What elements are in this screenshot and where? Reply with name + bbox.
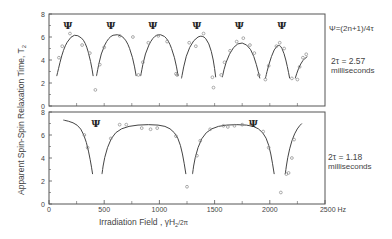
fit-curve [181, 36, 215, 78]
x-axis-title: Irradiation Field , γH2/2π [99, 217, 189, 228]
x-tick-label: 2500 Hz [320, 206, 347, 213]
fit-curve [285, 124, 302, 175]
data-point [147, 41, 150, 44]
data-point [140, 127, 143, 130]
data-point [186, 185, 189, 188]
y-axis-title-subscript: 2 [21, 44, 27, 48]
upper-tau-value: 2τ = 2.57 [331, 56, 366, 66]
psi-marker-icon: Ψ [91, 118, 101, 129]
fit-curve [57, 35, 93, 76]
psi-marker-icon: Ψ [249, 118, 259, 129]
fit-curve [102, 125, 186, 174]
psi-marker-icon: Ψ [148, 20, 158, 31]
lower-tau-unit: milliseconds [328, 162, 372, 171]
data-point [149, 128, 152, 131]
data-point [305, 53, 308, 56]
fit-curve [96, 35, 136, 76]
data-point [194, 45, 197, 48]
data-point [264, 78, 267, 81]
x-tick-label: 1000 [152, 206, 168, 213]
data-point [202, 32, 205, 35]
y-tick-label: 4 [41, 57, 45, 64]
data-point [278, 41, 281, 44]
psi-marker-icon: Ψ [63, 20, 73, 31]
data-point [212, 86, 215, 89]
data-point [290, 77, 293, 80]
data-point [118, 123, 121, 126]
x-tick-label: 500 [98, 206, 110, 213]
lower-psi-markers: ΨΨ [91, 118, 258, 129]
y-tick-label: 4 [41, 155, 45, 162]
fit-curve [265, 45, 289, 78]
y-axis-title: Apparent Spin-Spin Relaxation Time, T2 [16, 44, 27, 195]
fit-curve [222, 43, 260, 78]
upper-y-axis: 02468 [41, 11, 52, 110]
data-point [125, 123, 128, 126]
data-point [290, 157, 293, 160]
data-point [61, 45, 64, 48]
y-tick-label: 8 [41, 11, 45, 18]
fit-curve [141, 35, 179, 76]
x-tick-label: 0 [47, 206, 51, 213]
psi-marker-icon: Ψ [277, 20, 287, 31]
lower-tau-value: 2τ = 1.18 [328, 152, 363, 162]
data-point [156, 127, 159, 130]
data-point [188, 41, 191, 44]
data-point [302, 56, 305, 59]
data-point [242, 37, 245, 40]
x-tick-label: 1500 [207, 206, 223, 213]
data-point [283, 47, 286, 50]
psi-marker-icon: Ψ [106, 20, 116, 31]
y-tick-label: 2 [41, 178, 45, 185]
upper-psi-markers: ΨΨΨΨΨΨ [63, 20, 287, 31]
psi-legend: Ψ=(2n+1)/4τ [329, 24, 374, 33]
y-tick-label: 8 [41, 109, 45, 116]
data-point [94, 89, 97, 92]
fit-curve [295, 57, 307, 79]
data-point [296, 78, 299, 81]
data-point [249, 44, 252, 47]
data-point [253, 52, 256, 55]
data-point [235, 40, 238, 43]
y-tick-label: 6 [41, 34, 45, 41]
data-point [211, 76, 214, 79]
data-point [220, 74, 223, 77]
x-tick-label: 2000 [262, 206, 278, 213]
data-point [279, 191, 282, 194]
data-point [81, 44, 84, 47]
y-tick-label: 2 [41, 80, 45, 87]
data-point [223, 61, 226, 64]
data-point [132, 36, 135, 39]
data-point [226, 126, 229, 129]
data-point [293, 138, 296, 141]
psi-marker-icon: Ψ [192, 20, 202, 31]
y-tick-label: 0 [41, 201, 45, 208]
fit-curve [63, 120, 92, 174]
y-tick-label: 6 [41, 132, 45, 139]
upper-fit-curves [57, 35, 308, 79]
upper-tau-unit: milliseconds [331, 66, 375, 75]
psi-marker-icon: Ψ [235, 20, 245, 31]
data-point [137, 74, 140, 77]
relaxation-time-chart: 02468 02468 05001000150020002500 Hz ΨΨΨΨ… [0, 0, 392, 239]
lower-y-axis: 02468 [41, 109, 52, 208]
data-point [58, 56, 61, 59]
data-point [69, 32, 72, 35]
